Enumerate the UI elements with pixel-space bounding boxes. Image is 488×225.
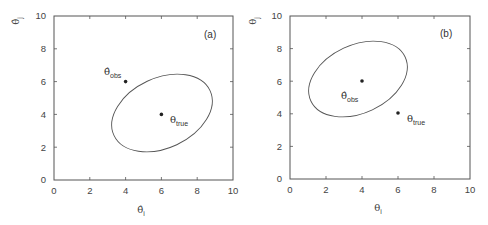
x-tick-label: 0 xyxy=(287,184,292,195)
true-label: θtrue xyxy=(170,114,188,127)
plot-frame xyxy=(54,16,233,180)
x-ticks xyxy=(290,16,470,179)
x-tick-label: 10 xyxy=(465,184,476,195)
y-tick-label: 2 xyxy=(277,141,282,152)
x-axis-label: θ̂i xyxy=(137,204,145,217)
true-point xyxy=(396,111,400,115)
y-tick-label: 10 xyxy=(271,10,282,21)
obs-label: θ̂obs xyxy=(104,66,122,79)
obs-label: θ̂obs xyxy=(341,90,359,103)
x-tick-label: 8 xyxy=(195,185,200,196)
y-tick-label: 8 xyxy=(277,43,282,54)
y-axis-label: θ̂j xyxy=(10,17,24,25)
y-tick-label: 6 xyxy=(41,76,46,87)
x-tick-label: 4 xyxy=(359,184,364,195)
x-ticks xyxy=(54,16,233,180)
y-tick-label: 10 xyxy=(35,10,46,21)
confidence-ellipse xyxy=(297,26,420,132)
x-tick-label: 10 xyxy=(228,185,239,196)
panel-label: (b) xyxy=(440,28,452,39)
x-axis-label: θi xyxy=(374,202,382,215)
x-tick-label: 4 xyxy=(123,185,128,196)
y-tick-label: 0 xyxy=(277,173,282,184)
y-tick-label: 2 xyxy=(41,142,46,153)
x-tick-label: 2 xyxy=(87,185,92,196)
x-tick-label: 6 xyxy=(395,184,400,195)
y-tick-label: 4 xyxy=(41,109,46,120)
y-tick-label: 6 xyxy=(277,76,282,87)
y-tick-label: 4 xyxy=(277,108,282,119)
plot-frame xyxy=(290,16,470,179)
obs-point xyxy=(360,79,364,83)
true-point xyxy=(160,113,164,117)
true-label: θtrue xyxy=(407,113,425,126)
panel-label: (a) xyxy=(204,29,216,40)
y-tick-label: 8 xyxy=(41,43,46,54)
obs-point xyxy=(124,80,128,84)
y-axis-label: θj xyxy=(247,17,261,25)
x-tick-label: 2 xyxy=(323,184,328,195)
figure: 0 2 4 6 8 10 0 2 4 6 8 10 θ̂i θ̂j (a) θ̂… xyxy=(0,0,488,225)
x-tick-label: 8 xyxy=(431,184,436,195)
panel-b: 0 2 4 6 8 10 0 2 4 6 8 10 θi θj (b) θ̂ob… xyxy=(247,10,475,215)
y-tick-label: 0 xyxy=(41,174,46,185)
x-tick-label: 6 xyxy=(159,185,164,196)
x-tick-label: 0 xyxy=(51,185,56,196)
panel-a: 0 2 4 6 8 10 0 2 4 6 8 10 θ̂i θ̂j (a) θ̂… xyxy=(10,10,238,217)
